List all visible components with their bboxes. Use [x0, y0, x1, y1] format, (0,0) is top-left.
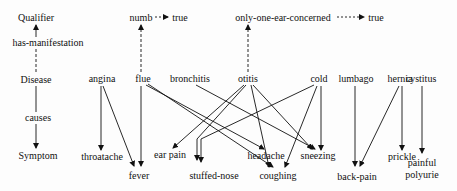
- edge-otitis-ear-pain: [173, 85, 244, 148]
- symptom-headache: headache: [247, 151, 284, 161]
- symptom-sneezing: sneezing: [301, 151, 336, 161]
- level-symptom: Symptom: [19, 151, 58, 161]
- disease-flue: flue: [135, 74, 151, 84]
- edge-otitis-stuffed-nose: [197, 85, 246, 139]
- disease-symptom-diagram: Qualifier has-manifestation Disease caus…: [0, 0, 457, 191]
- qualifier-only-one-ear-value: true: [368, 13, 384, 23]
- disease-cystitus: cystitus: [406, 74, 437, 84]
- relation-has-manifestation: has-manifestation: [12, 38, 83, 48]
- edge-cold-stuffed-nose: [201, 85, 314, 139]
- symptom-back-pain: back-pain: [337, 172, 376, 182]
- symptom-painful-polyurie: painful polyurie: [400, 157, 444, 181]
- qualifier-numb-value: true: [172, 13, 188, 23]
- relation-causes: causes: [25, 113, 51, 123]
- level-disease: Disease: [20, 75, 51, 85]
- disease-otitis: otitis: [238, 74, 258, 84]
- edge-otitis-sneezing: [253, 85, 312, 149]
- symptom-fever: fever: [129, 171, 150, 181]
- symptom-throatache: throatache: [81, 152, 123, 162]
- disease-lumbago: lumbago: [339, 74, 374, 84]
- qualifier-only-one-ear-concerned: only-one-ear-concerned: [235, 13, 330, 23]
- disease-bronchitis: bronchitis: [170, 74, 210, 84]
- diagram-edges: [0, 0, 457, 191]
- symptom-ear-pain: ear pain: [154, 150, 186, 160]
- disease-angina: angina: [89, 74, 116, 84]
- edge-bronchitis-sneezing: [196, 85, 315, 149]
- qualifier-numb: numb: [130, 13, 153, 23]
- symptom-stuffed-nose: stuffed-nose: [189, 171, 238, 181]
- symptom-coughing: coughing: [259, 171, 296, 181]
- disease-cold: cold: [310, 74, 327, 84]
- level-qualifier: Qualifier: [18, 13, 54, 23]
